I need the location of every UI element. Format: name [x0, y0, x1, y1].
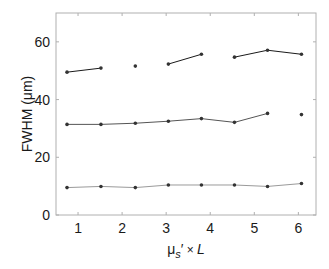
data-point [65, 70, 69, 74]
x-tick-label: 4 [206, 220, 214, 236]
data-point [65, 123, 69, 127]
data-point [300, 52, 304, 56]
y-tick-label: 20 [34, 149, 50, 165]
x-tick-label: 2 [118, 220, 126, 236]
data-point [134, 186, 138, 190]
data-point [167, 119, 171, 123]
data-point [134, 64, 138, 68]
y-tick-label: 0 [42, 207, 50, 223]
x-label-L: L [197, 241, 205, 257]
data-point [266, 48, 270, 52]
data-point [65, 186, 69, 190]
x-label-times: × [183, 243, 197, 257]
data-point [99, 66, 103, 70]
data-point [167, 62, 171, 66]
data-point [233, 121, 237, 125]
data-point [300, 113, 304, 117]
data-point [99, 185, 103, 189]
x-tick-label: 5 [250, 220, 258, 236]
x-axis-label: μs′ × L [167, 241, 205, 260]
data-point [134, 121, 138, 125]
x-tick-labels: 123456 [74, 220, 302, 236]
y-tick-label: 60 [34, 34, 50, 50]
data-point [233, 55, 237, 59]
data-point [99, 123, 103, 127]
data-point [200, 183, 204, 187]
data-point [233, 183, 237, 187]
x-tick-label: 3 [162, 220, 170, 236]
data-point [200, 117, 204, 121]
data-point [300, 182, 304, 186]
fwhm-chart: 123456 0204060 FWHM (μm) μs′ × L [0, 0, 329, 269]
y-axis-label: FWHM (μm) [19, 76, 35, 152]
data-point [266, 185, 270, 189]
y-tick-labels: 0204060 [34, 34, 50, 223]
data-point [266, 112, 270, 116]
data-point [200, 52, 204, 56]
x-label-mu: μ [167, 241, 175, 257]
x-tick-label: 6 [294, 220, 302, 236]
data-point [167, 183, 171, 187]
x-tick-label: 1 [74, 220, 82, 236]
y-tick-label: 40 [34, 92, 50, 108]
